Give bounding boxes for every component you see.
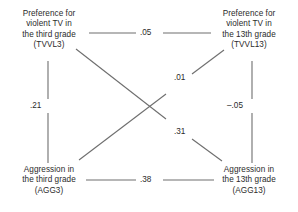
- path-line-diagonal-agg3-to-tvvl13-lower: [79, 94, 166, 160]
- path-line-diagonal-tvvl3-to-agg13-upper: [76, 49, 166, 119]
- coefficient-label-left: .21: [28, 101, 43, 110]
- coefficient-label-right: –.05: [225, 101, 245, 110]
- coefficient-label-diagonal-upper: .01: [172, 73, 187, 82]
- node-tvvl3-line-4: (TVVL3): [6, 40, 92, 50]
- node-tvvl3: Preference for violent TV in the third g…: [6, 9, 92, 51]
- node-tvvl13-line-1: Preference for: [206, 9, 292, 19]
- node-tvvl13-line-4: (TVVL13): [206, 40, 292, 50]
- node-tvvl3-line-3: the third grade: [6, 30, 92, 40]
- node-agg3-line-1: Aggression in: [6, 165, 92, 175]
- node-tvvl13: Preference for violent TV in the 13th gr…: [206, 9, 292, 51]
- node-tvvl13-line-3: the 13th grade: [206, 30, 292, 40]
- node-tvvl3-line-2: violent TV in: [6, 19, 92, 29]
- node-agg13-line-2: the 13th grade: [206, 175, 292, 185]
- node-tvvl3-line-1: Preference for: [6, 9, 92, 19]
- diagram-canvas: Preference for violent TV in the third g…: [0, 0, 298, 212]
- node-tvvl13-line-2: violent TV in: [206, 19, 292, 29]
- coefficient-label-diagonal-lower: .31: [172, 127, 187, 136]
- node-agg3: Aggression in the third grade (AGG3): [6, 165, 92, 196]
- path-line-diagonal-tvvl3-to-agg13-lower: [192, 139, 222, 161]
- node-agg13-line-3: (AGG13): [206, 186, 292, 196]
- coefficient-label-top: .05: [138, 28, 153, 37]
- node-agg13: Aggression in the 13th grade (AGG13): [206, 165, 292, 196]
- coefficient-label-bottom: .38: [138, 175, 153, 184]
- node-agg3-line-2: the third grade: [6, 175, 92, 185]
- node-agg3-line-3: (AGG3): [6, 186, 92, 196]
- path-line-diagonal-agg3-to-tvvl13-upper: [192, 50, 224, 74]
- node-agg13-line-1: Aggression in: [206, 165, 292, 175]
